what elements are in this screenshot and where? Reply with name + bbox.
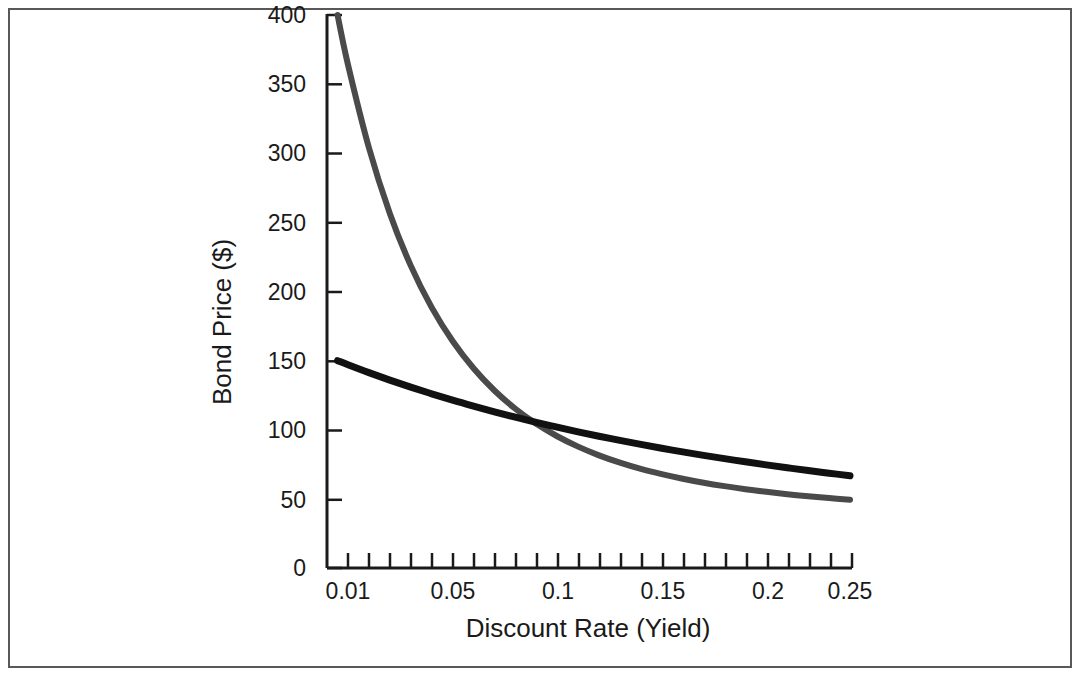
x-tick-marks xyxy=(348,553,852,568)
x-tick-label-0-1: 0.1 xyxy=(542,578,574,605)
y-tick-label-0: 0 xyxy=(244,555,306,582)
y-axis-title: Bond Price ($) xyxy=(207,239,238,405)
y-tick-label-400: 400 xyxy=(244,2,306,29)
y-tick-label-200: 200 xyxy=(244,279,306,306)
series-line-short-maturity-bond xyxy=(338,361,850,476)
y-tick-label-350: 350 xyxy=(244,71,306,98)
y-tick-label-300: 300 xyxy=(244,140,306,167)
chart-figure: 400 350 300 250 200 150 100 50 0 0.01 0.… xyxy=(0,0,1083,679)
x-tick-label-0-2: 0.2 xyxy=(752,578,784,605)
axis-lines xyxy=(327,14,852,568)
x-tick-label-0-05: 0.05 xyxy=(431,578,476,605)
y-tick-label-150: 150 xyxy=(244,348,306,375)
y-tick-label-50: 50 xyxy=(244,487,306,514)
x-tick-label-0-25: 0.25 xyxy=(828,578,873,605)
y-tick-label-250: 250 xyxy=(244,210,306,237)
x-tick-label-0-01: 0.01 xyxy=(326,578,371,605)
series-line-long-maturity-bond xyxy=(338,15,850,500)
x-tick-label-0-15: 0.15 xyxy=(641,578,686,605)
y-tick-label-100: 100 xyxy=(244,417,306,444)
y-tick-marks xyxy=(327,15,342,568)
x-axis-title: Discount Rate (Yield) xyxy=(466,613,711,644)
